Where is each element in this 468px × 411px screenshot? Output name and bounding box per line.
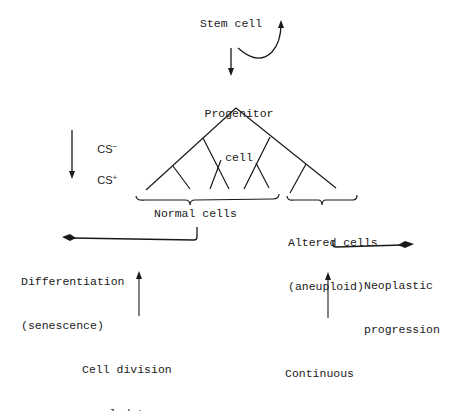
progenitor-line-2: cell — [194, 151, 284, 166]
cs-minus-sign: − — [113, 142, 118, 151]
normal-to-differentiation-arrow — [72, 227, 197, 240]
coupled-line-1: Cell division — [82, 363, 186, 378]
diamond-arrowhead-right — [398, 241, 414, 248]
normal-cells-brace — [136, 194, 279, 205]
diamond-arrowhead-left — [62, 234, 76, 241]
uncoupled-annotation: Continuous proliferation uncoupled from … — [285, 338, 389, 411]
normal-cells-label: Normal cells — [154, 207, 237, 222]
neoplastic-line-2: progression — [364, 323, 440, 338]
coupled-line-2: coupled to — [82, 407, 186, 411]
cs-plus-sign: + — [113, 173, 118, 182]
stem-cell-label: Stem cell — [200, 17, 262, 32]
diagram-canvas: Stem cell Progenitor cell CS− CS+ Normal… — [0, 0, 468, 411]
neoplastic-line-1: Neoplastic — [364, 279, 440, 294]
uncoupled-line-1: Continuous — [285, 367, 389, 382]
coupled-annotation: Cell division coupled to differentiation — [82, 334, 186, 411]
altered-cells-brace — [287, 195, 357, 205]
progenitor-cell-label: Progenitor cell — [194, 78, 284, 194]
altered-line-1: Altered cells — [288, 236, 378, 251]
cs-minus-text: CS — [97, 143, 112, 155]
differentiation-line-2: (senescence) — [21, 319, 125, 334]
differentiation-line-1: Differentiation — [21, 275, 125, 290]
progenitor-line-1: Progenitor — [194, 107, 284, 122]
cs-plus-text: CS — [97, 174, 112, 186]
cs-plus-label: CS+ — [85, 158, 117, 202]
